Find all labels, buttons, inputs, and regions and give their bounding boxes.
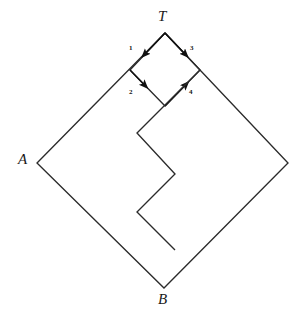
- edge-label-4: 4: [189, 89, 193, 96]
- staircase-path: [137, 70, 200, 250]
- directed-edge-3: [165, 33, 186, 55]
- vertex-label-T: T: [158, 9, 166, 24]
- edge-label-1: 1: [129, 45, 133, 52]
- edge-label-2: 2: [129, 89, 133, 96]
- vertex-label-A: A: [18, 152, 27, 167]
- directed-edge-1: [145, 33, 166, 55]
- figure-root: T A B 1 2 3 4: [0, 0, 307, 322]
- diagram-canvas: [0, 0, 307, 322]
- vertex-label-B: B: [158, 292, 167, 307]
- directed-edge-2: [130, 70, 145, 86]
- edge-label-3: 3: [190, 45, 194, 52]
